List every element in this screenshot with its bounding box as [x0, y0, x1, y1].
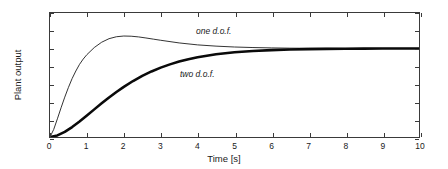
y-tick-mark	[415, 139, 419, 140]
x-tick-mark	[161, 133, 162, 137]
x-tick-label: 4	[195, 141, 200, 151]
x-tick-mark	[421, 133, 422, 137]
x-tick-label: 6	[269, 141, 274, 151]
y-tick-mark	[50, 49, 54, 50]
x-tick-label: 7	[306, 141, 311, 151]
y-tick-mark	[415, 49, 419, 50]
series-annotation-two-dof: two d.o.f.	[180, 69, 215, 79]
series-line-two-dof	[50, 48, 419, 137]
x-tick-mark	[50, 133, 51, 137]
x-tick-mark	[421, 13, 422, 17]
y-tick-mark	[415, 103, 419, 104]
x-tick-label: 10	[415, 141, 424, 151]
x-tick-mark	[236, 133, 237, 137]
x-tick-mark	[310, 133, 311, 137]
y-tick-mark	[50, 13, 54, 14]
x-tick-mark	[198, 133, 199, 137]
x-tick-mark	[124, 13, 125, 17]
y-tick-mark	[50, 103, 54, 104]
x-tick-mark	[347, 13, 348, 17]
x-tick-label: 0	[47, 141, 52, 151]
x-axis-label: Time [s]	[0, 153, 448, 164]
x-tick-mark	[236, 13, 237, 17]
y-tick-mark	[50, 85, 54, 86]
x-tick-mark	[347, 133, 348, 137]
curves-svg	[50, 13, 419, 137]
x-tick-mark	[87, 13, 88, 17]
x-tick-label: 1	[84, 141, 89, 151]
x-tick-label: 9	[381, 141, 386, 151]
y-tick-mark	[415, 67, 419, 68]
x-tick-mark	[273, 13, 274, 17]
chart-figure: Plant output 00.20.40.60.811.21.4 012345…	[0, 0, 448, 169]
y-tick-mark	[50, 139, 54, 140]
y-tick-mark	[415, 31, 419, 32]
x-tick-mark	[124, 133, 125, 137]
x-tick-label: 8	[343, 141, 348, 151]
y-tick-mark	[50, 121, 54, 122]
x-tick-mark	[384, 13, 385, 17]
x-tick-label: 5	[232, 141, 237, 151]
x-tick-label: 3	[158, 141, 163, 151]
y-tick-mark	[50, 31, 54, 32]
y-tick-mark	[50, 67, 54, 68]
x-tick-mark	[310, 13, 311, 17]
x-tick-mark	[384, 133, 385, 137]
y-axis-label: Plant output	[12, 50, 23, 101]
x-tick-mark	[198, 13, 199, 17]
series-annotation-one-dof: one d.o.f.	[196, 26, 231, 36]
y-tick-mark	[415, 13, 419, 14]
x-tick-mark	[273, 133, 274, 137]
x-tick-mark	[87, 133, 88, 137]
x-tick-label: 2	[121, 141, 126, 151]
y-tick-mark	[415, 85, 419, 86]
x-tick-mark	[161, 13, 162, 17]
y-tick-mark	[415, 121, 419, 122]
plot-area	[49, 12, 420, 138]
y-axis-label-container: Plant output	[10, 12, 24, 138]
